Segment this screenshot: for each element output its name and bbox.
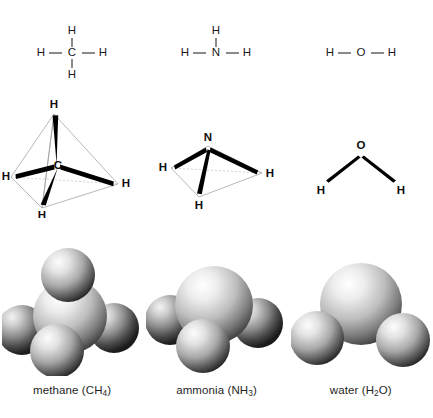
- methane-caption-formula-base: CH: [86, 384, 103, 396]
- methane-caption: methane (CH4): [33, 384, 111, 398]
- ammonia-sphere-hydrogen-front: [176, 319, 230, 373]
- methane-hydrogen-right: H: [99, 46, 107, 58]
- ammonia-caption-name: ammonia: [176, 384, 224, 396]
- ammonia-structural-formula: H H H N: [173, 22, 259, 84]
- methane-bond-wedge-left: [16, 164, 55, 179]
- ammonia-caption-formula-sub: 3: [248, 388, 253, 398]
- methane-hydrogen-bottom: H: [68, 68, 76, 80]
- ammonia-geom-hydrogen-front: H: [195, 199, 203, 211]
- methane-carbon-center: C: [68, 46, 76, 58]
- ammonia-hydrogen-left: H: [181, 46, 189, 58]
- water-spacefill-cell: [289, 248, 433, 376]
- water-structural-formula: H H O: [318, 22, 404, 84]
- methane-geom-carbon-center: C: [54, 159, 62, 171]
- methane-geom-hydrogen-top: H: [50, 98, 58, 110]
- water-caption-cell: water (H2O): [289, 380, 433, 402]
- ammonia-hydrogen-top: H: [212, 24, 220, 36]
- water-geom-hydrogen-right: H: [397, 184, 405, 196]
- methane-geom-hydrogen-right: H: [122, 177, 130, 189]
- ammonia-nitrogen-center: N: [212, 46, 220, 58]
- ammonia-structural-cell: H H H N: [144, 22, 288, 84]
- ammonia-caption: ammonia (NH3): [176, 384, 257, 398]
- methane-caption-name: methane: [33, 384, 78, 396]
- ammonia-bond-wedge-left: [174, 148, 207, 170]
- methane-geometry-cell: H H H H C: [0, 98, 144, 218]
- ammonia-geom-hydrogen-left: H: [159, 161, 167, 173]
- water-bond-wedge-right: [361, 155, 396, 182]
- space-filling-model-row: [0, 248, 433, 376]
- methane-sphere-hydrogen-front: [30, 324, 84, 376]
- methane-geom-hydrogen-left: H: [2, 170, 10, 182]
- water-space-filling-model: [291, 248, 431, 376]
- water-caption: water (H2O): [330, 384, 392, 398]
- water-geom-oxygen-center: O: [356, 139, 365, 151]
- methane-space-filling-model: [2, 248, 142, 376]
- ammonia-space-filling-model: [146, 248, 286, 376]
- water-bent-diagram: O H H: [291, 98, 431, 218]
- methane-tetrahedron-diagram: H H H H C: [2, 98, 142, 218]
- ammonia-geometry-cell: N H H H: [144, 98, 288, 218]
- methane-spacefill-cell: [0, 248, 144, 376]
- water-hydrogen-right: H: [388, 46, 396, 58]
- ammonia-spacefill-cell: [144, 248, 288, 376]
- water-structural-cell: H H O: [289, 22, 433, 84]
- water-hydrogen-left: H: [326, 46, 334, 58]
- ammonia-geom-hydrogen-right: H: [266, 167, 274, 179]
- methane-bond-wedge-front: [41, 168, 58, 205]
- methane-structural-formula: H H H H C: [29, 22, 115, 84]
- water-sphere-hydrogen-left: [291, 311, 344, 365]
- water-sphere-hydrogen-right: [376, 313, 430, 367]
- methane-geom-hydrogen-front: H: [38, 209, 46, 218]
- ammonia-geom-nitrogen-center: N: [204, 131, 212, 143]
- caption-row: methane (CH4) ammonia (NH3) water (H2O): [0, 380, 433, 402]
- water-oxygen-center: O: [356, 46, 365, 58]
- methane-caption-cell: methane (CH4): [0, 380, 144, 402]
- water-geometry-cell: O H H: [289, 98, 433, 218]
- methane-bond-wedge-right: [60, 165, 114, 187]
- structural-formula-row: H H H H C H H H N H H: [0, 22, 433, 84]
- ammonia-hydrogen-right: H: [243, 46, 251, 58]
- ammonia-pyramid-diagram: N H H H: [146, 98, 286, 218]
- methane-hydrogen-top: H: [68, 24, 76, 36]
- water-caption-name: water: [330, 384, 359, 396]
- water-bond-wedge-left: [326, 155, 361, 182]
- water-caption-formula-base: H: [366, 384, 374, 396]
- methane-bond-wedge-top: [53, 115, 59, 164]
- ammonia-caption-cell: ammonia (NH3): [144, 380, 288, 402]
- water-geom-hydrogen-left: H: [317, 184, 325, 196]
- methane-sphere-hydrogen-top: [41, 248, 95, 302]
- ammonia-caption-formula-base: NH: [231, 384, 248, 396]
- methane-structural-cell: H H H H C: [0, 22, 144, 84]
- geometry-diagram-row: H H H H C N H H: [0, 98, 433, 218]
- methane-hydrogen-left: H: [37, 46, 45, 58]
- water-caption-formula-tail: O: [379, 384, 388, 396]
- molecule-figure: H H H H C H H H N H H: [0, 0, 433, 418]
- methane-caption-formula-sub: 4: [103, 388, 108, 398]
